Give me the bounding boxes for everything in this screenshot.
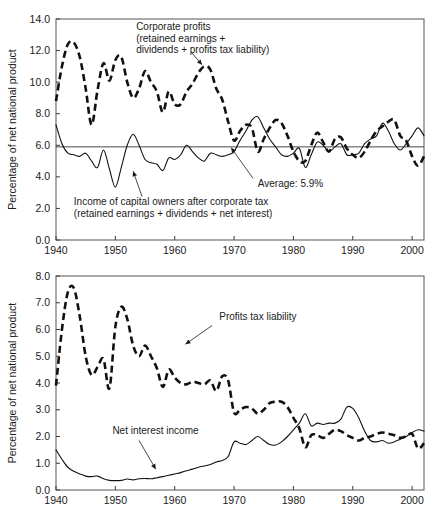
x-tick-label: 1980 <box>282 494 306 506</box>
y-tick-label: 6.0 <box>35 139 50 151</box>
x-tick-label: 1970 <box>222 244 246 256</box>
x-tick-label: 1980 <box>282 244 306 256</box>
x-tick-label: 1940 <box>44 244 68 256</box>
chart-panel-bottom: 0.01.02.03.04.05.06.07.08.01940195019601… <box>0 262 433 515</box>
y-tick-label: 8.0 <box>35 270 50 282</box>
chart-svg-bottom: 0.01.02.03.04.05.06.07.08.01940195019601… <box>0 262 433 515</box>
series-line-solid <box>56 406 424 480</box>
y-tick-label: 4.0 <box>35 377 50 389</box>
y-tick-label: 3.0 <box>35 403 50 415</box>
x-tick-label: 1960 <box>163 494 187 506</box>
profits-tax-liability-label: Profits tax liability <box>219 311 296 322</box>
annotation-arrowhead <box>185 339 190 344</box>
x-tick-label: 1950 <box>104 494 128 506</box>
x-tick-label: 1990 <box>341 244 365 256</box>
figure-container: 0.02.04.06.08.010.012.014.01940195019601… <box>0 0 433 515</box>
x-tick-label: 1940 <box>44 494 68 506</box>
y-tick-label: 2.0 <box>35 202 50 214</box>
chart-panel-top: 0.02.04.06.08.010.012.014.01940195019601… <box>0 0 433 262</box>
y-tick-label: 2.0 <box>35 430 50 442</box>
y-tick-label: 14.0 <box>30 13 51 25</box>
x-tick-label: 1990 <box>341 494 365 506</box>
y-tick-label: 10.0 <box>30 76 51 88</box>
annotation-leader-line <box>231 148 253 179</box>
y-axis-label: Percentage of net national product <box>6 49 18 210</box>
x-tick-label: 1950 <box>104 244 128 256</box>
y-tick-label: 12.0 <box>30 44 51 56</box>
y-tick-label: 8.0 <box>35 107 50 119</box>
chart-svg-top: 0.02.04.06.08.010.012.014.01940195019601… <box>0 0 433 262</box>
corporate-profits-label: dividends + profits tax liability) <box>136 44 269 55</box>
corporate-profits-label: (retained earnings + <box>136 33 225 44</box>
average-label: Average: 5.9% <box>258 178 324 189</box>
income-capital-owners-label: Income of capital owners after corporate… <box>74 196 269 207</box>
y-tick-label: 5.0 <box>35 350 50 362</box>
x-tick-label: 2000 <box>400 494 424 506</box>
income-capital-owners-label: (retained earnings + dividends + net int… <box>74 208 272 219</box>
corporate-profits-label: Corporate profits <box>136 21 210 32</box>
y-tick-label: 7.0 <box>35 296 50 308</box>
series-line-solid <box>56 116 424 187</box>
annotation-arrowhead <box>133 171 138 177</box>
y-tick-label: 4.0 <box>35 170 50 182</box>
y-tick-label: 1.0 <box>35 457 50 469</box>
y-axis-label: Percentage of net national product <box>6 303 18 464</box>
x-tick-label: 1960 <box>163 244 187 256</box>
x-tick-label: 2000 <box>400 244 424 256</box>
y-tick-label: 6.0 <box>35 323 50 335</box>
net-interest-income-label: Net interest income <box>112 425 199 436</box>
x-tick-label: 1970 <box>222 494 246 506</box>
